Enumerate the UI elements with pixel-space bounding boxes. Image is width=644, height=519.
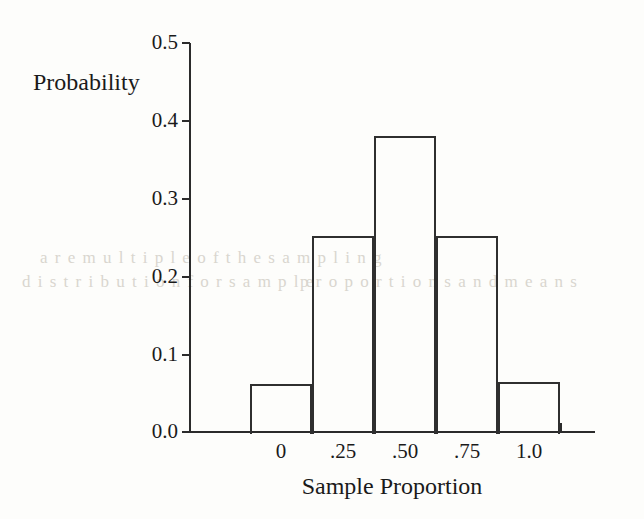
- y-tick-label: 0.1: [136, 344, 178, 365]
- y-tick-label: 0.2: [136, 266, 178, 287]
- y-tick-mark: [182, 276, 190, 278]
- histogram-bar-25: [312, 236, 374, 434]
- x-tick-label: .25: [312, 440, 374, 463]
- y-tick-label: 0.4: [136, 110, 178, 131]
- x-tick-label: 1.0: [498, 440, 560, 463]
- y-axis-line: [189, 43, 191, 433]
- y-tick-mark: [182, 354, 190, 356]
- y-tick-label: 0.5: [136, 32, 178, 53]
- y-tick-label: 0.3: [136, 188, 178, 209]
- x-tick-label: 0: [250, 440, 312, 463]
- y-axis-title: Probability: [33, 68, 140, 96]
- x-tick-mark: [560, 423, 562, 432]
- y-tick-label: 0.0: [136, 421, 178, 442]
- y-tick-mark: [182, 42, 190, 44]
- histogram-figure: a r e m u l t i p l e o f t h e s a m p …: [0, 0, 644, 519]
- y-tick-mark: [182, 198, 190, 200]
- histogram-bar-0: [250, 384, 312, 434]
- x-tick-label: .75: [436, 440, 498, 463]
- y-tick-mark: [182, 120, 190, 122]
- histogram-bar-100: [498, 382, 560, 434]
- x-tick-label: .50: [374, 440, 436, 463]
- x-tick-mark: [189, 423, 191, 432]
- x-axis-title: Sample Proportion: [189, 472, 595, 500]
- histogram-bar-75: [436, 236, 498, 434]
- histogram-bar-50: [374, 136, 436, 434]
